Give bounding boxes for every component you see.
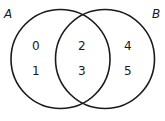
element-a-only-0: 0 xyxy=(32,39,40,53)
element-both-3: 3 xyxy=(78,64,86,78)
circle-b xyxy=(56,10,155,109)
element-b-only-5: 5 xyxy=(124,64,132,78)
element-both-2: 2 xyxy=(78,39,86,53)
set-label-b: B xyxy=(152,7,160,21)
venn-diagram: A B 0 1 2 3 4 5 xyxy=(0,0,165,121)
set-label-a: A xyxy=(3,7,12,21)
element-a-only-1: 1 xyxy=(32,64,40,78)
element-b-only-4: 4 xyxy=(124,39,132,53)
circle-a xyxy=(11,10,110,109)
